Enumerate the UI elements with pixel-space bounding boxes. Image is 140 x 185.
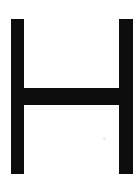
glyph-canvas: H xyxy=(0,0,140,185)
scan-speck-artifact xyxy=(103,137,106,140)
letter-h-right-stem xyxy=(119,19,133,174)
letter-h-crossbar xyxy=(11,88,133,105)
